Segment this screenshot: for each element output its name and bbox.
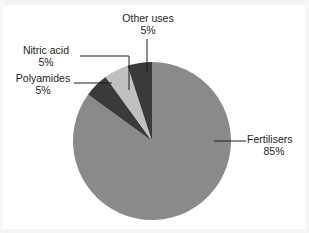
slice-label-polyamides-percent: 5% (8, 84, 78, 96)
slice-label-fertilisers-name: Fertilisers (247, 133, 293, 145)
slice-label-other-uses-name: Other uses (122, 12, 173, 24)
slice-label-nitric-acid-percent: 5% (13, 56, 79, 68)
slice-label-polyamides: Polyamides 5% (8, 72, 78, 96)
slice-label-fertilisers-percent: 85% (247, 145, 305, 157)
pie-chart-figure: Other uses 5% Nitric acid 5% Polyamides … (0, 0, 309, 233)
slice-label-other-uses: Other uses 5% (113, 12, 183, 36)
slice-label-nitric-acid-name: Nitric acid (23, 44, 69, 56)
slice-label-nitric-acid: Nitric acid 5% (13, 44, 79, 68)
slice-label-polyamides-name: Polyamides (16, 72, 70, 84)
slice-label-other-uses-percent: 5% (113, 24, 183, 36)
slice-label-fertilisers: Fertilisers 85% (247, 133, 305, 157)
